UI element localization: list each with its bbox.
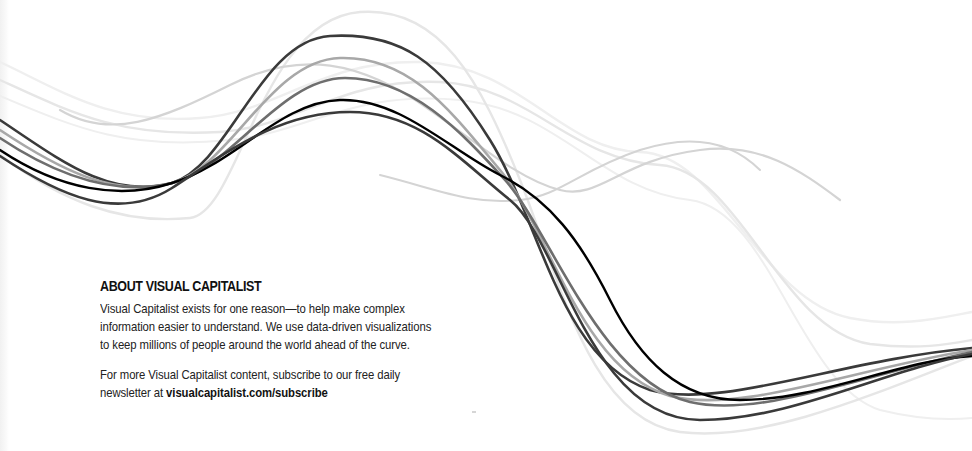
subscribe-link[interactable]: visualcapitalist.com/subscribe: [166, 386, 328, 400]
subscribe-line-1: For more Visual Capitalist content, subs…: [100, 366, 528, 384]
paragraph-spacer: [100, 354, 528, 366]
decorative-mark: [472, 411, 476, 413]
subscribe-line-2: newsletter at visualcapitalist.com/subsc…: [100, 384, 528, 402]
subscribe-prefix: newsletter at: [100, 386, 166, 400]
about-line: to keep millions of people around the wo…: [100, 336, 528, 354]
about-line: Visual Capitalist exists for one reason—…: [100, 300, 528, 318]
about-section: ABOUT VISUAL CAPITALIST Visual Capitalis…: [100, 278, 520, 402]
about-title: ABOUT VISUAL CAPITALIST: [100, 278, 461, 294]
about-line: information easier to understand. We use…: [100, 318, 528, 336]
about-body: Visual Capitalist exists for one reason—…: [100, 300, 528, 402]
